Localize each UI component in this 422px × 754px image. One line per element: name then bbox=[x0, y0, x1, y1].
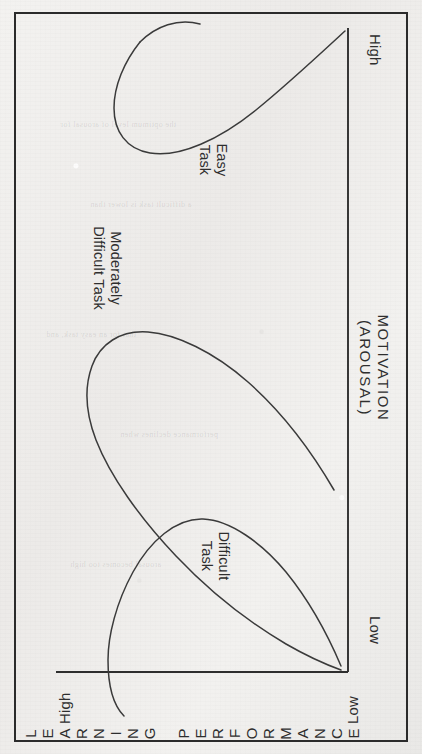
curve-label-moderately-difficult-task-line-1: Moderately bbox=[107, 188, 124, 348]
curve-label-moderately-difficult-task: Moderately Difficult Task bbox=[90, 188, 124, 348]
curve-label-difficult-task: Difficult Task bbox=[198, 496, 232, 616]
y-axis-title-letter: A bbox=[56, 725, 73, 742]
y-axis-title-letter: R bbox=[209, 725, 226, 742]
y-axis-title-letter: N bbox=[90, 725, 107, 742]
y-axis-title-letter: R bbox=[260, 725, 277, 742]
curve-label-difficult-task-line-2: Task bbox=[198, 496, 215, 616]
curve-label-easy-task-line-2: Task bbox=[196, 110, 213, 210]
y-axis-title-letter: I bbox=[107, 725, 124, 742]
y-axis-title-letter: E bbox=[39, 725, 56, 742]
y-axis-title-letter: C bbox=[328, 725, 345, 742]
x-axis-low-label: Low bbox=[367, 616, 384, 644]
y-axis-title-letter: G bbox=[141, 725, 158, 742]
x-axis-title-line-1: MOTIVATION bbox=[374, 288, 392, 448]
y-axis-title-letter: N bbox=[311, 725, 328, 742]
y-axis-title-letter: E bbox=[192, 725, 209, 742]
curve-label-easy-task: Easy Task bbox=[196, 110, 230, 210]
y-axis-title-letter: O bbox=[243, 725, 260, 742]
curve-label-difficult-task-line-1: Difficult bbox=[215, 496, 232, 616]
y-axis-title-letter: M bbox=[277, 725, 294, 742]
y-axis-title-letter: L bbox=[22, 725, 39, 742]
y-axis-title-letter: P bbox=[175, 725, 192, 742]
figure-root: the optimum level of arousal for a diffi… bbox=[0, 0, 422, 754]
x-axis-title-line-2: (AROUSAL) bbox=[357, 288, 375, 448]
y-axis-title-letter: N bbox=[124, 725, 141, 742]
y-axis-title: LEARNINGPERFORMANCE bbox=[22, 720, 400, 746]
y-axis-title-letter: E bbox=[345, 725, 362, 742]
y-axis-title-letter: F bbox=[226, 725, 243, 742]
curve-label-easy-task-line-1: Easy bbox=[213, 110, 230, 210]
y-axis-title-letter: A bbox=[294, 725, 311, 742]
x-axis-high-label: High bbox=[367, 34, 384, 66]
x-axis-title: MOTIVATION (AROUSAL) bbox=[357, 288, 392, 448]
curve-label-moderately-difficult-task-line-2: Difficult Task bbox=[90, 188, 107, 348]
y-axis-title-letter: R bbox=[73, 725, 90, 742]
